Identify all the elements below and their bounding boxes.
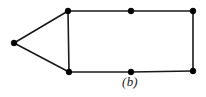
graph-vertex-top-right: [190, 8, 196, 14]
edge-apex-topleft: [14, 11, 68, 43]
edges-layer: [14, 11, 193, 72]
figure-container: (b): [0, 0, 206, 97]
edge-bottomright-bottommiddle: [131, 71, 193, 72]
figure-caption-label: (b): [122, 74, 138, 90]
figure-caption: (b): [0, 74, 206, 90]
graph-vertex-top-left: [65, 8, 71, 14]
graph-vertex-top-middle: [128, 8, 134, 14]
edge-topleft-bottomleft: [68, 11, 69, 72]
graph-vertex-apex: [11, 40, 17, 46]
vertices-layer: [11, 8, 196, 75]
edge-apex-bottomleft: [14, 43, 69, 72]
